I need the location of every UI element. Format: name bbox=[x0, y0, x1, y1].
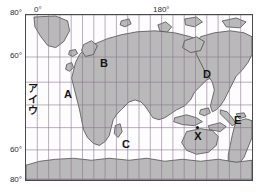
region-label-c: C bbox=[122, 139, 130, 150]
world-map-figure: 0° 180° 80° 60° 60° 80° bbox=[0, 0, 259, 196]
latitude-label-south-80: 80° bbox=[0, 176, 22, 184]
point-marker-x: X bbox=[192, 126, 204, 144]
latitude-label-north-60: 60° bbox=[0, 52, 22, 60]
kana-label-i: イ bbox=[28, 95, 38, 105]
kana-label-u: ウ bbox=[28, 106, 38, 116]
map-plate: A B C D E ア イ ウ X bbox=[25, 14, 253, 181]
longitude-label-0: 0° bbox=[34, 6, 42, 14]
region-label-d: D bbox=[203, 69, 211, 80]
region-label-a: A bbox=[64, 89, 72, 100]
latitude-label-south-60: 60° bbox=[0, 146, 22, 154]
region-label-b: B bbox=[100, 58, 108, 69]
latitude-label-north-80: 80° bbox=[0, 9, 22, 17]
point-marker-label: X bbox=[192, 131, 204, 142]
region-label-e: E bbox=[234, 115, 241, 126]
graticule bbox=[26, 15, 252, 180]
kana-label-a: ア bbox=[28, 84, 38, 94]
longitude-label-180: 180° bbox=[153, 6, 170, 14]
map-drawing bbox=[26, 15, 252, 180]
point-marker-dot bbox=[196, 126, 199, 129]
